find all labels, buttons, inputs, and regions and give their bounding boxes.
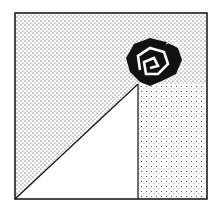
stippled-region-right (138, 84, 207, 199)
illustration (0, 0, 221, 213)
